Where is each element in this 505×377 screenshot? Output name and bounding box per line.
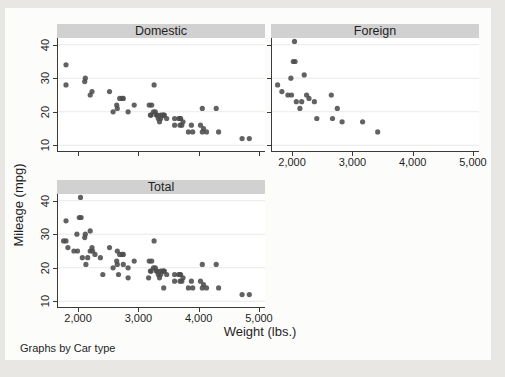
y-tick-mark	[267, 112, 271, 113]
x-tick-label: 4,000	[399, 156, 427, 168]
scatter-plot-foreign: 2,0003,0004,0005,000	[271, 38, 479, 152]
y-axis-title: Mileage (mpg)	[11, 163, 26, 246]
y-tick-label: 40	[39, 39, 51, 51]
y-tick-label: 40	[39, 195, 51, 207]
scatter-plot-total: 2,0003,0004,0005,00010203040	[57, 194, 265, 308]
x-axis-title: Weight (lbs.)	[224, 324, 297, 339]
x-tick-label: 2,000	[64, 312, 92, 324]
panel-title-foreign: Foreign	[354, 24, 396, 38]
x-tick-label: 4,000	[185, 312, 213, 324]
y-tick-label: 10	[39, 139, 51, 151]
x-tick-mark	[138, 152, 139, 156]
x-tick-label: 5,000	[245, 312, 273, 324]
panel-title-domestic: Domestic	[135, 24, 187, 38]
y-tick-mark	[267, 45, 271, 46]
x-tick-label: 3,000	[339, 156, 367, 168]
x-tick-label: 2,000	[278, 156, 306, 168]
y-tick-mark	[53, 301, 57, 302]
y-tick-mark	[267, 145, 271, 146]
y-tick-mark	[53, 145, 57, 146]
y-tick-mark	[53, 234, 57, 235]
y-tick-mark	[53, 201, 57, 202]
y-tick-label: 30	[39, 228, 51, 240]
graph-caption: Graphs by Car type	[20, 342, 115, 354]
panel-foreign: Foreign 2,0003,0004,0005,000	[271, 24, 479, 152]
panel-header-domestic: Domestic	[57, 24, 265, 38]
y-tick-label: 20	[39, 106, 51, 118]
scatter-plot-domestic: 10203040	[57, 38, 265, 152]
x-tick-label: 3,000	[125, 312, 153, 324]
y-tick-mark	[267, 78, 271, 79]
x-tick-label: 5,000	[459, 156, 487, 168]
y-tick-label: 30	[39, 72, 51, 84]
x-tick-mark	[199, 152, 200, 156]
panel-total: Total 2,0003,0004,0005,00010203040	[57, 180, 265, 308]
y-tick-label: 20	[39, 262, 51, 274]
x-tick-mark	[259, 152, 260, 156]
panel-header-foreign: Foreign	[271, 24, 479, 38]
graph-canvas: Mileage (mpg) Domestic 10203040 Foreign …	[5, 8, 491, 360]
y-tick-mark	[53, 45, 57, 46]
stata-by-graph: Mileage (mpg) Domestic 10203040 Foreign …	[0, 0, 505, 377]
panel-title-total: Total	[148, 180, 174, 194]
y-tick-mark	[53, 268, 57, 269]
x-tick-mark	[78, 152, 79, 156]
panel-header-total: Total	[57, 180, 265, 194]
y-tick-mark	[53, 112, 57, 113]
y-tick-mark	[53, 78, 57, 79]
panel-domestic: Domestic 10203040	[57, 24, 265, 152]
y-tick-label: 10	[39, 295, 51, 307]
